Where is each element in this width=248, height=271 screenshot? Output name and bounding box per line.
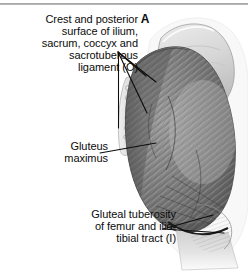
panel-letter-a: A [136, 12, 154, 26]
label-insertion: Gluteal tuberosity of femur and ilio- ti… [52, 208, 176, 244]
label-gluteus-maximus: Gluteus maximus [34, 140, 108, 164]
label-origin: Crest and posterior surface of ilium, sa… [6, 13, 138, 73]
top-rule-divider [0, 3, 248, 5]
